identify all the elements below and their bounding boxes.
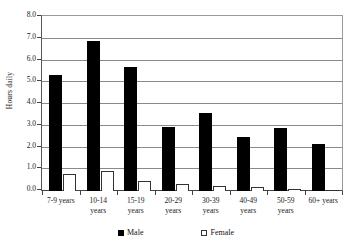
bar-female[interactable] xyxy=(138,181,151,191)
legend-item-female[interactable]: Female xyxy=(201,228,234,237)
x-tick-label-line: years xyxy=(192,206,230,216)
x-tick-label: 50-59years xyxy=(267,196,305,215)
bar-male[interactable] xyxy=(87,41,100,191)
x-tick-label: 40-49years xyxy=(230,196,268,215)
x-tick-label: 10-14years xyxy=(80,196,118,215)
bar-male[interactable] xyxy=(199,113,212,191)
x-tick-label-line: years xyxy=(80,206,118,216)
x-tick-label: 30-39years xyxy=(192,196,230,215)
y-tick-label: 3.0 xyxy=(0,120,36,127)
x-tick-label-line: 10-14 xyxy=(80,196,118,206)
legend-label: Male xyxy=(127,228,143,237)
x-tick-label: 60+ years xyxy=(305,196,343,215)
y-axis-title: Hours daily xyxy=(5,61,14,121)
x-tick-mark xyxy=(305,191,306,195)
x-tick-label-line: 50-59 xyxy=(267,196,305,206)
x-tick-mark xyxy=(230,191,231,195)
x-tick-label-line: 30-39 xyxy=(192,196,230,206)
y-tick-label: 6.0 xyxy=(0,55,36,62)
bar-male[interactable] xyxy=(237,137,250,191)
bar-male[interactable] xyxy=(312,144,325,191)
filled-square-icon xyxy=(118,230,124,236)
bar-male[interactable] xyxy=(162,127,175,191)
y-tick-label: 4.0 xyxy=(0,98,36,105)
x-tick-label-line: years xyxy=(230,206,268,216)
x-tick-mark xyxy=(42,191,43,195)
x-tick-label-line: 20-29 xyxy=(155,196,193,206)
x-tick-mark xyxy=(267,191,268,195)
bar-group xyxy=(80,16,118,191)
x-axis-ticks xyxy=(42,191,342,195)
x-tick-mark xyxy=(80,191,81,195)
legend-label: Female xyxy=(210,228,234,237)
x-tick-label: 20-29years xyxy=(155,196,193,215)
bar-group xyxy=(117,16,155,191)
chart-title-remnant xyxy=(0,0,352,6)
y-tick-label: 7.0 xyxy=(0,33,36,40)
x-tick-label-line: 40-49 xyxy=(230,196,268,206)
x-tick-mark xyxy=(117,191,118,195)
bar-female[interactable] xyxy=(63,174,76,191)
x-tick-label: 7-9 years xyxy=(42,196,80,215)
bar-group xyxy=(192,16,230,191)
bar-group xyxy=(42,16,80,191)
x-tick-mark xyxy=(155,191,156,195)
x-tick-label: 15-19years xyxy=(117,196,155,215)
x-axis-tick-labels: 7-9 years10-14years15-19years20-29years3… xyxy=(42,196,342,215)
legend-item-male[interactable]: Male xyxy=(118,228,143,237)
chart-legend: MaleFemale xyxy=(0,228,352,237)
bar-male[interactable] xyxy=(124,67,137,191)
x-tick-mark xyxy=(192,191,193,195)
bar-chart: Hours daily 8.07.06.05.04.03.02.01.00.0 … xyxy=(0,0,352,249)
bar-female[interactable] xyxy=(101,171,114,191)
bar-groups xyxy=(42,16,342,191)
bar-group xyxy=(230,16,268,191)
x-tick-mark xyxy=(342,191,343,195)
bar-group xyxy=(305,16,343,191)
x-tick-label-line: 60+ years xyxy=(305,196,343,206)
bar-male[interactable] xyxy=(274,128,287,191)
x-tick-label-line: 7-9 years xyxy=(42,196,80,206)
bar-group xyxy=(155,16,193,191)
x-tick-label-line: 15-19 xyxy=(117,196,155,206)
x-tick-label-line: years xyxy=(117,206,155,216)
x-tick-label-line: years xyxy=(155,206,193,216)
y-tick-label: 8.0 xyxy=(0,11,36,18)
y-tick-label: 0.0 xyxy=(0,185,36,192)
x-tick-label-line: years xyxy=(267,206,305,216)
y-tick-label: 1.0 xyxy=(0,163,36,170)
y-tick-label: 5.0 xyxy=(0,76,36,83)
empty-square-icon xyxy=(201,230,207,236)
bar-female[interactable] xyxy=(176,184,189,191)
y-tick-label: 2.0 xyxy=(0,142,36,149)
bar-group xyxy=(267,16,305,191)
bar-male[interactable] xyxy=(49,75,62,191)
